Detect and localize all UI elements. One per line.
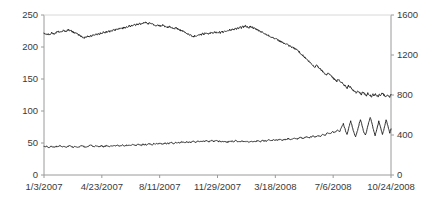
lower-series-line — [44, 118, 391, 148]
left-axis-tick-label: 0 — [0, 170, 38, 180]
right-axis-tick-label: 1200 — [397, 50, 418, 60]
right-axis-tick-label: 400 — [397, 130, 413, 140]
right-axis-tick-label: 800 — [397, 90, 413, 100]
right-axis-tick-label: 0 — [397, 170, 402, 180]
left-axis-tick-label: 250 — [0, 10, 38, 20]
right-axis-tick-label: 1600 — [397, 10, 418, 20]
left-axis-tick-label: 100 — [0, 106, 38, 116]
left-axis-tick-label: 50 — [0, 138, 38, 148]
x-axis-tick-label: 10/24/2008 — [355, 182, 427, 192]
dual-axis-time-series-chart: 0501001502002500400800120016001/3/20074/… — [0, 0, 436, 201]
left-axis-tick-label: 150 — [0, 74, 38, 84]
upper-series-line — [44, 22, 391, 97]
left-axis-tick-label: 200 — [0, 42, 38, 52]
chart-plot-area — [0, 0, 436, 201]
